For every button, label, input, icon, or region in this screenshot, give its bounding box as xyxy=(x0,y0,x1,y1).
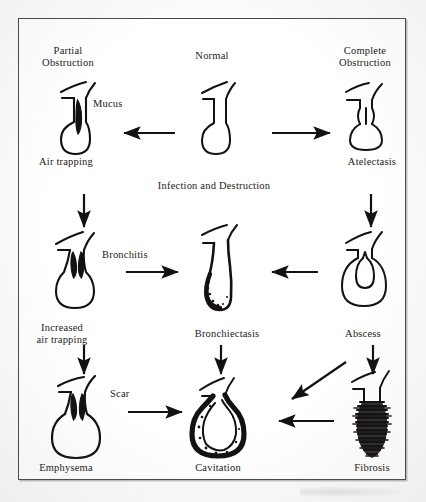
figure-fibrosis-airway xyxy=(344,368,408,464)
figure-abscess-airway xyxy=(334,228,406,314)
figure-bronchiectasis-airway xyxy=(192,222,258,316)
figure-normal-airway xyxy=(192,78,254,160)
cavity-debris xyxy=(198,405,241,455)
heading-complete-obstruction: Complete Obstruction xyxy=(339,45,391,70)
scar-wedge-right xyxy=(79,394,85,420)
label-increased-air-trapping: Increased air trapping xyxy=(36,322,87,347)
heading-normal: Normal xyxy=(195,50,228,62)
figure-cavitation-airway xyxy=(184,372,260,464)
scar-wedge-left xyxy=(71,394,77,420)
figure-partial-obstruction-airway xyxy=(48,78,120,160)
inflammation-wedge-right xyxy=(78,252,84,278)
diagram-page: Partial Obstruction Normal Complete Obst… xyxy=(0,0,426,502)
inflammation-wedge-left xyxy=(71,252,77,278)
heading-partial-obstruction: Partial Obstruction xyxy=(42,45,94,70)
figure-complete-obstruction-airway xyxy=(338,78,404,158)
figure-bronchitis-airway xyxy=(48,228,120,314)
label-abscess: Abscess xyxy=(345,328,381,340)
label-bronchiectasis: Bronchiectasis xyxy=(195,328,260,340)
label-infection-and-destruction: Infection and Destruction xyxy=(158,180,270,192)
mucus-plug xyxy=(76,100,82,134)
figure-emphysema-airway xyxy=(46,372,124,464)
